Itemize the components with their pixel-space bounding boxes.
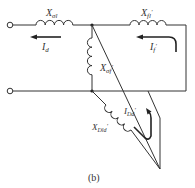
inductor-x-sigma-f: [87, 38, 92, 75]
label-i-dd: IDd′: [123, 106, 136, 117]
idd-arrow-shaft: [134, 112, 151, 139]
inductor-x-fl: [130, 21, 166, 25]
label-x-dld: XDld′: [91, 122, 109, 133]
if-arrow-shaft: [141, 37, 176, 52]
label-i-d: Id: [41, 41, 49, 54]
top-terminal: [7, 22, 13, 28]
label-i-f: If′: [149, 41, 157, 54]
id-arrow-head-icon: [30, 35, 37, 40]
bottom-terminal: [7, 88, 13, 94]
figure-caption: (b): [88, 172, 100, 184]
equivalent-circuit-diagram: Xσl Id Xfl′ If′ Xσf′ IDd′ XDld′ (b): [0, 0, 195, 188]
wire-dld-a: [92, 91, 106, 105]
label-x-sigma-l: Xσl: [45, 7, 58, 20]
if-arrow-head-icon: [136, 35, 143, 40]
inductor-x-sigma-l: [36, 20, 73, 25]
wire-dld-b: [131, 130, 160, 169]
label-x-sigma-f: Xσf′: [99, 62, 114, 75]
label-x-fl: Xfl′: [140, 7, 153, 20]
